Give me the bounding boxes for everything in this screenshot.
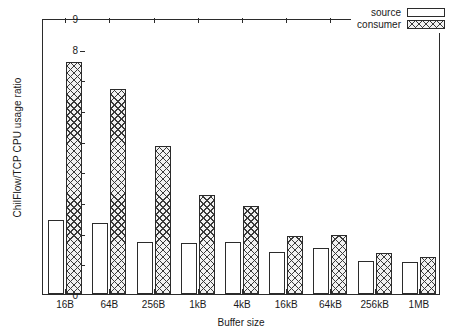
legend-item-source: source: [357, 7, 445, 18]
y-axis-tick-label: 9: [72, 12, 78, 27]
bar-consumer-1kB: [199, 195, 215, 294]
bar-consumer-64kB: [331, 235, 347, 294]
legend-item-consumer: consumer: [357, 19, 445, 30]
x-axis-tick-mark-top: [286, 18, 287, 23]
bar-source-16B: [48, 220, 64, 294]
y-axis-tick: 0: [43, 296, 85, 297]
bar-source-64kB: [313, 248, 329, 294]
bar-consumer-256kB: [376, 253, 392, 294]
bar-consumer-1MB: [420, 257, 436, 294]
legend-label-source: source: [371, 7, 401, 18]
x-axis-tick-label: 1MB: [389, 298, 449, 311]
bar-consumer-16B: [66, 62, 82, 294]
x-axis-tick-mark-top: [65, 18, 66, 23]
bar-source-256B: [137, 242, 153, 294]
bar-consumer-16kB: [287, 236, 303, 294]
x-axis-tick-mark-top: [154, 18, 155, 23]
bar-consumer-256B: [155, 146, 171, 294]
legend-label-consumer: consumer: [357, 19, 401, 30]
y-axis-tick: 9: [43, 20, 85, 21]
x-axis-title: Buffer size: [42, 317, 440, 328]
bar-source-1MB: [402, 262, 418, 294]
x-axis-tick-mark-top: [198, 18, 199, 23]
legend: source consumer: [351, 4, 449, 33]
bar-consumer-64B: [110, 89, 126, 294]
x-axis-tick: 1MB: [419, 18, 420, 294]
legend-swatch-consumer-icon: [407, 20, 445, 29]
x-axis-tick-mark-top: [109, 18, 110, 23]
legend-swatch-source-icon: [407, 8, 445, 17]
y-axis-tick-mark: [80, 51, 85, 52]
y-axis-title: ChilFlow/TCP CPU usage ratio: [11, 0, 25, 295]
y-axis-tick: 8: [43, 51, 85, 52]
x-axis-tick-mark-top: [330, 18, 331, 23]
bar-consumer-4kB: [243, 206, 259, 294]
bar-source-16kB: [269, 252, 285, 294]
plot-area: 0123456789 16B64B256B1kB4kB16kB64kB256kB…: [42, 19, 440, 295]
y-axis-tick-label: 8: [72, 43, 78, 58]
bar-source-256kB: [358, 261, 374, 294]
bar-chart: ChilFlow/TCP CPU usage ratio 0123456789 …: [0, 0, 453, 335]
bar-source-4kB: [225, 242, 241, 294]
bar-source-1kB: [181, 243, 197, 294]
bar-source-64B: [92, 223, 108, 294]
x-axis-tick-mark-top: [242, 18, 243, 23]
